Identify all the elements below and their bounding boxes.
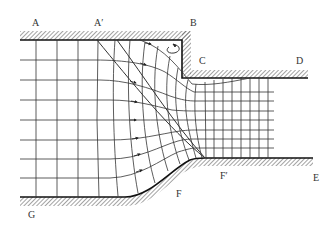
streamline	[20, 80, 274, 101]
equipotential-line	[176, 68, 189, 160]
equipotential-line	[205, 82, 206, 158]
arrow-right-icon	[145, 43, 151, 44]
label-F-prime: F′	[220, 170, 228, 181]
streamline	[20, 100, 274, 111]
step-wall-hatch	[182, 31, 191, 78]
equipotential-line	[97, 40, 99, 197]
label-C: C	[199, 55, 206, 66]
label-D: D	[296, 55, 303, 66]
diagonal-line	[117, 40, 205, 158]
label-A-prime: A′	[94, 17, 103, 28]
label-A: A	[32, 17, 40, 28]
streamline	[20, 130, 274, 140]
label-E: E	[313, 172, 319, 183]
arrow-right-icon	[132, 138, 138, 139]
equipotential-lines	[36, 40, 268, 197]
label-B: B	[190, 17, 197, 28]
label-G: G	[28, 209, 35, 220]
label-F: F	[176, 188, 182, 199]
top-right-wall-hatch	[190, 70, 308, 78]
channel-walls	[20, 31, 313, 206]
top-wall-hatch	[20, 31, 190, 40]
flow-net-diagram: A A′ B C D E F F′ G	[0, 0, 333, 226]
equipotential-line	[142, 42, 155, 183]
recirculating-eddy-icon	[167, 44, 179, 53]
